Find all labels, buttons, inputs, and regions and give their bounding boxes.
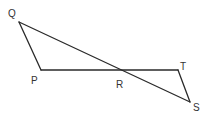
- geometry-diagram: Q P R T S: [0, 0, 211, 119]
- segment-qp: [19, 22, 41, 70]
- label-t: T: [180, 61, 186, 72]
- segment-qs: [19, 22, 190, 102]
- label-s: S: [193, 102, 200, 113]
- label-r: R: [116, 79, 123, 90]
- label-p: P: [31, 75, 38, 86]
- label-q: Q: [8, 8, 16, 19]
